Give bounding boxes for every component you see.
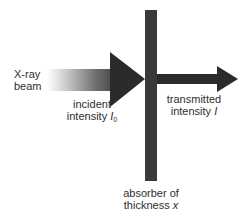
transmitted-label-line1: transmitted (160, 93, 228, 105)
incident-label-line1: incident (58, 98, 126, 110)
absorber-label-text: thickness (124, 199, 173, 211)
absorber-slab (145, 10, 157, 181)
transmitted-label-text: intensity (171, 105, 214, 117)
incident-label-line2: intensity I0 (58, 110, 126, 122)
xray-beam-label-line1: X-ray (14, 68, 42, 80)
transmitted-label-line2: intensity I (160, 105, 228, 117)
transmitted-intensity-label: transmitted intensity I (160, 93, 228, 117)
transmitted-intensity-symbol: I (214, 105, 217, 117)
incident-intensity-subscript: 0 (113, 116, 117, 123)
incident-intensity-label: incident intensity I0 (58, 98, 126, 122)
xray-beam-label: X-ray beam (14, 68, 42, 92)
transmitted-beam-arrow (157, 66, 238, 92)
absorber-thickness-label: absorber of thickness x (114, 187, 188, 211)
absorber-label-line1: absorber of (114, 187, 188, 199)
transmitted-beam-arrowhead (217, 66, 238, 92)
xray-beam-label-line2: beam (14, 80, 42, 92)
transmitted-beam-shaft (157, 74, 218, 84)
absorber-label-line2: thickness x (114, 199, 188, 211)
incident-label-text: intensity (67, 110, 110, 122)
incident-beam-shaft (47, 69, 111, 91)
absorber-thickness-symbol: x (173, 199, 179, 211)
